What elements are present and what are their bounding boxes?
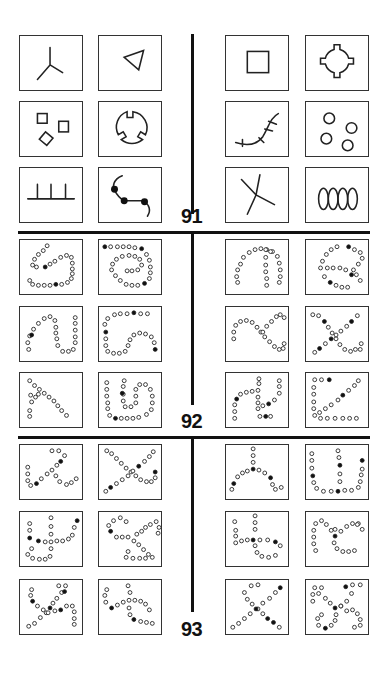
hollow-dot <box>273 591 277 595</box>
hollow-dot <box>66 281 70 285</box>
hollow-dot <box>110 452 114 456</box>
hollow-dot <box>232 337 236 341</box>
hollow-dot <box>148 387 152 391</box>
filled-dot <box>360 459 364 463</box>
hollow-dot <box>138 257 142 261</box>
hollow-dot <box>317 592 321 596</box>
hollow-dot <box>312 400 316 404</box>
hollow-dot <box>256 407 260 411</box>
filled-dot <box>273 540 277 544</box>
hollow-dot <box>237 621 241 625</box>
dot-s-wave-icon <box>306 512 368 566</box>
hollow-dot <box>338 343 342 347</box>
figure-box <box>19 372 83 428</box>
dot-loop-b-icon <box>99 240 161 294</box>
hollow-dot <box>148 271 152 275</box>
hollow-dot <box>47 395 51 399</box>
hollow-dot <box>41 249 45 253</box>
filled-dot <box>232 482 236 486</box>
filled-dot <box>327 378 331 382</box>
hollow-dot <box>131 556 135 560</box>
filled-dot <box>48 606 52 610</box>
hollow-dot <box>115 535 119 539</box>
hollow-dot <box>358 279 362 283</box>
hollow-dot <box>57 449 61 453</box>
hollow-dot <box>147 455 151 459</box>
hollow-dot <box>311 593 315 597</box>
hollow-dot <box>134 474 138 478</box>
puzzle-number: 92 <box>181 410 202 433</box>
hollow-dot <box>60 409 64 413</box>
hollow-dot <box>121 399 125 403</box>
hollow-dot <box>255 551 259 555</box>
vertical-divider <box>191 34 194 214</box>
hollow-dot <box>264 248 268 252</box>
hollow-dot <box>133 246 137 250</box>
filled-dot <box>132 618 136 622</box>
hollow-dot <box>320 613 324 617</box>
figure-box <box>225 239 289 295</box>
hollow-dot <box>265 324 269 328</box>
hollow-dot <box>312 481 316 485</box>
hollow-dot <box>136 283 140 287</box>
filled-dot <box>43 265 47 269</box>
hollow-dot <box>282 316 286 320</box>
hollow-dot <box>43 540 47 544</box>
dot-knot-icon <box>99 580 161 634</box>
hollow-dot <box>69 255 73 259</box>
hollow-dot <box>251 447 255 451</box>
hollow-dot <box>124 555 128 559</box>
hollow-dot <box>149 335 153 339</box>
hollow-dot <box>146 553 150 557</box>
hollow-dot <box>70 272 74 276</box>
hollow-dot <box>74 477 78 481</box>
figure-box <box>98 101 162 157</box>
hollow-dot <box>73 335 77 339</box>
hollow-dot <box>360 256 364 260</box>
hollow-dot <box>337 456 341 460</box>
figure-box <box>19 35 83 91</box>
hollow-dot <box>126 344 130 348</box>
filled-dot <box>269 476 273 480</box>
hollow-dot <box>336 398 340 402</box>
hollow-dot <box>126 584 130 588</box>
hollow-dot <box>245 538 249 542</box>
filled-dot <box>153 470 157 474</box>
dot-loop-n-shape-icon <box>226 373 288 427</box>
hollow-dot <box>319 266 323 270</box>
hollow-dot <box>255 325 259 329</box>
hollow-dot <box>30 588 34 592</box>
figure-box <box>98 167 162 223</box>
hollow-dot <box>48 315 52 319</box>
hollow-dot <box>72 617 76 621</box>
hollow-dot <box>338 480 342 484</box>
hollow-dot <box>269 414 273 418</box>
figure-box <box>225 306 289 362</box>
hollow-dot <box>278 275 282 279</box>
dot-x-shape-icon <box>99 445 161 499</box>
hollow-dot <box>147 277 151 281</box>
filled-dot <box>347 245 351 249</box>
filled-dot <box>264 414 268 418</box>
hollow-dot <box>277 261 281 265</box>
hollow-dot <box>313 350 317 354</box>
hollow-dot <box>138 331 142 335</box>
hollow-dot <box>154 520 158 524</box>
hollow-dot <box>245 469 249 473</box>
hollow-dot <box>136 268 140 272</box>
hollow-dot <box>46 611 50 615</box>
hollow-dot <box>37 387 41 391</box>
dot-cross-loop-icon <box>99 512 161 566</box>
hollow-dot <box>360 467 364 471</box>
hollow-dot <box>65 254 69 258</box>
hollow-dot <box>359 342 363 346</box>
hollow-dot <box>105 588 109 592</box>
hollow-dot <box>127 245 131 249</box>
hollow-dot <box>49 547 53 551</box>
hollow-dot <box>115 457 119 461</box>
hollow-dot <box>33 621 37 625</box>
filled-dot <box>336 489 340 493</box>
hollow-dot <box>325 266 329 270</box>
hollow-dot <box>72 622 76 626</box>
hollow-dot <box>144 556 148 560</box>
